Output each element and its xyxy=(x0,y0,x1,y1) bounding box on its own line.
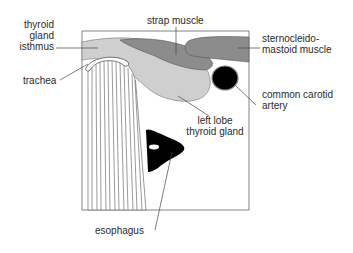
label-sternocleidomastoid: sternocleido- mastoid muscle xyxy=(262,33,331,55)
label-line: left lobe xyxy=(180,115,250,126)
esophagus-shape xyxy=(146,129,184,172)
trachea-shape xyxy=(86,57,146,210)
label-line: common carotid xyxy=(262,89,333,100)
label-line: thyroid xyxy=(10,19,54,30)
common-carotid-artery-shape xyxy=(212,66,238,90)
label-thyroid-isthmus: thyroid gland isthmus xyxy=(10,19,54,52)
label-line: mastoid muscle xyxy=(262,44,331,55)
label-line: sternocleido- xyxy=(262,33,331,44)
leader-trachea xyxy=(60,64,88,80)
label-common-carotid-artery: common carotid artery xyxy=(262,89,333,111)
label-line: gland xyxy=(10,30,54,41)
label-line: isthmus xyxy=(10,41,54,52)
label-line: thyroid gland xyxy=(180,126,250,137)
label-left-lobe-thyroid: left lobe thyroid gland xyxy=(180,115,250,137)
label-trachea: trachea xyxy=(23,75,56,86)
label-strap-muscle: strap muscle xyxy=(147,15,204,26)
label-esophagus: esophagus xyxy=(95,225,144,236)
label-line: artery xyxy=(262,100,333,111)
esophagus-lumen xyxy=(149,145,159,150)
leader-carotid xyxy=(236,86,256,105)
